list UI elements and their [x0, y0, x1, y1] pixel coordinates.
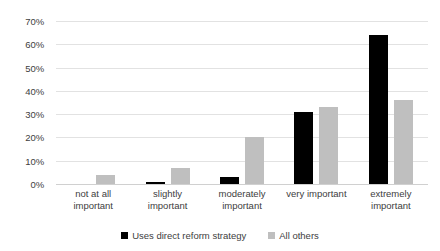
- x-axis-tick-line: slightly important: [132, 188, 202, 211]
- y-axis-tick-label: 30%: [25, 109, 44, 120]
- bar[interactable]: [146, 182, 165, 184]
- axis-baseline: [56, 184, 428, 185]
- x-axis-tick-label: moderatelyimportant: [205, 188, 279, 222]
- x-axis-tick-label: slightly important: [130, 188, 204, 222]
- x-axis-tick-label: extremelyimportant: [354, 188, 428, 222]
- bar[interactable]: [96, 175, 115, 184]
- bar[interactable]: [319, 107, 338, 184]
- x-axis-tick-line: not at all: [58, 188, 128, 200]
- legend-item[interactable]: Uses direct reform strategy: [121, 230, 246, 241]
- y-axis-tick-label: 40%: [25, 85, 44, 96]
- bar[interactable]: [294, 112, 313, 184]
- bar[interactable]: [171, 168, 190, 184]
- x-axis-tick-line: important: [58, 200, 128, 212]
- bar[interactable]: [369, 35, 388, 184]
- x-axis: not at allimportantslightly importantmod…: [56, 188, 428, 222]
- chart-legend: Uses direct reform strategyAll others: [0, 230, 440, 241]
- y-axis-tick-label: 70%: [25, 16, 44, 27]
- bar-group: [205, 21, 279, 184]
- y-axis-tick-label: 20%: [25, 132, 44, 143]
- y-axis-tick-label: 60%: [25, 39, 44, 50]
- legend-swatch-icon: [268, 232, 275, 239]
- bar[interactable]: [220, 177, 239, 184]
- legend-label: Uses direct reform strategy: [132, 230, 246, 241]
- x-axis-tick-line: important: [207, 200, 277, 212]
- x-axis-tick-line: moderately: [207, 188, 277, 200]
- bar-group: [279, 21, 353, 184]
- x-axis-tick-label: not at allimportant: [56, 188, 130, 222]
- bar[interactable]: [394, 100, 413, 184]
- legend-swatch-icon: [121, 232, 128, 239]
- legend-item[interactable]: All others: [268, 230, 319, 241]
- y-axis: 70%60%50%40%30%20%10%0%: [0, 21, 50, 184]
- x-axis-tick-line: very important: [281, 188, 351, 200]
- bar-group: [354, 21, 428, 184]
- bar-group: [130, 21, 204, 184]
- bar-group: [56, 21, 130, 184]
- x-axis-tick-label: very important: [279, 188, 353, 222]
- y-axis-tick-label: 50%: [25, 62, 44, 73]
- x-axis-tick-line: important: [356, 200, 426, 212]
- bar[interactable]: [245, 137, 264, 184]
- x-axis-tick-line: extremely: [356, 188, 426, 200]
- y-axis-tick-label: 0%: [30, 179, 44, 190]
- bar-groups: [56, 21, 428, 184]
- plot-area: [56, 21, 428, 184]
- y-axis-tick-label: 10%: [25, 155, 44, 166]
- legend-label: All others: [279, 230, 319, 241]
- bar-chart: 70%60%50%40%30%20%10%0% not at allimport…: [0, 0, 440, 251]
